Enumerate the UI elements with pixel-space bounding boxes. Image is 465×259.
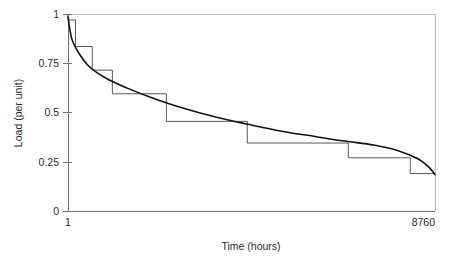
load-duration-curve-series [68,17,435,175]
load-duration-curve-figure: 1 0.75 0.5 0.25 0 1 8760 Time (hours) Lo… [0,0,465,259]
y-tick-label-1: 1 [53,8,59,20]
x-tick-label-start: 1 [65,216,71,228]
y-tick-label-025: 0.25 [39,156,60,168]
y-tick-label-075: 0.75 [39,57,60,69]
x-axis-title: Time (hours) [221,240,280,252]
x-tick-label-end: 8760 [412,216,436,228]
y-tick-label-0: 0 [53,205,59,217]
stepped-approximation-series [68,14,435,174]
y-tick-label-05: 0.5 [44,106,59,118]
chart-canvas: 1 0.75 0.5 0.25 0 1 8760 Time (hours) Lo… [0,0,465,259]
y-axis-title: Load (per unit) [12,79,24,147]
